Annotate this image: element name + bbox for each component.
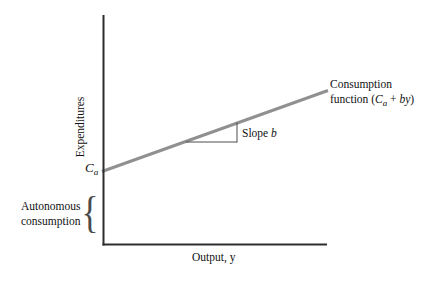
curve-label-prefix: function ( — [330, 93, 375, 105]
intercept-subscript: a — [94, 167, 99, 177]
autonomous-consumption-label: Autonomous consumption — [21, 199, 80, 229]
slope-annotation: Slope b — [242, 126, 277, 141]
consumption-function-label: Consumption function (Ca + by) — [330, 77, 414, 107]
curve-label-slope-term: by — [399, 93, 410, 105]
curve-label-symbol: C — [375, 93, 383, 105]
autonomous-consumption-line1: Autonomous — [21, 199, 80, 214]
autonomous-consumption-line2: consumption — [21, 214, 80, 229]
curve-label-suffix: ) — [410, 93, 414, 105]
intercept-symbol: C — [85, 160, 94, 175]
consumption-function-label-line2: function (Ca + by) — [330, 92, 414, 107]
x-axis-label: Output, y — [192, 250, 235, 265]
intercept-label: Ca — [85, 160, 98, 175]
autonomous-brace-icon: { — [82, 187, 99, 238]
slope-annotation-prefix: Slope — [242, 127, 271, 139]
consumption-function-figure: Expenditures Output, y Ca Autonomous con… — [0, 0, 440, 284]
consumption-function-label-line1: Consumption — [330, 77, 414, 92]
y-axis-label: Expenditures — [73, 97, 88, 158]
consumption-line — [102, 91, 328, 172]
diagram-canvas — [0, 0, 440, 284]
slope-annotation-variable: b — [271, 127, 277, 139]
curve-label-operator: + — [387, 93, 399, 105]
